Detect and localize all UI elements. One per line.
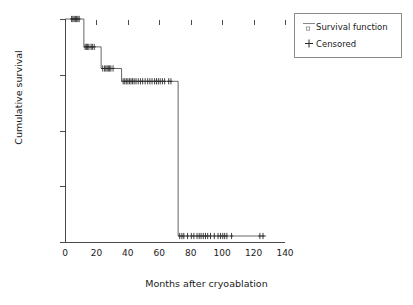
y-tick xyxy=(60,242,65,243)
legend-label-censored: Censored xyxy=(316,39,356,49)
plus-icon xyxy=(301,38,316,49)
survival-chart-figure: Cumulative survival Months after cryoabl… xyxy=(0,0,413,305)
survival-curve xyxy=(65,19,285,242)
censored-mark xyxy=(192,233,195,239)
censored-mark xyxy=(182,233,185,239)
censored-marks-group xyxy=(70,16,265,239)
survival-line-icon xyxy=(301,21,316,32)
censored-mark xyxy=(258,233,261,239)
plot-area: 0.840.880.920.961.00 020406080100120140 xyxy=(65,19,285,242)
x-tick-label: 120 xyxy=(239,249,269,258)
legend-label-survival-function: Survival function xyxy=(316,22,388,32)
censored-mark xyxy=(186,233,189,239)
x-tick-label: 0 xyxy=(50,249,80,258)
x-axis-label: Months after cryoablation xyxy=(0,278,413,289)
censored-mark xyxy=(261,233,264,239)
x-tick-label: 20 xyxy=(81,249,111,258)
censored-mark xyxy=(163,78,166,84)
x-tick-label: 80 xyxy=(176,249,206,258)
legend-item-survival-function: Survival function xyxy=(301,19,396,34)
censored-mark xyxy=(209,233,212,239)
x-tick xyxy=(285,20,286,25)
y-axis-label: Cumulative survival xyxy=(13,28,24,168)
censored-mark xyxy=(213,233,216,239)
censored-mark xyxy=(93,44,96,50)
censored-mark xyxy=(230,233,233,239)
legend-item-censored: Censored xyxy=(301,36,396,51)
x-tick-label: 100 xyxy=(207,249,237,258)
chart-legend: Survival function Censored xyxy=(294,13,402,58)
x-tick-label: 40 xyxy=(113,249,143,258)
x-axis-line xyxy=(65,242,285,243)
x-tick-label: 140 xyxy=(270,249,300,258)
censored-mark xyxy=(111,65,114,71)
step-line xyxy=(65,19,266,236)
censored-mark xyxy=(169,78,172,84)
censored-mark xyxy=(225,233,228,239)
x-tick-label: 60 xyxy=(144,249,174,258)
step-line-group xyxy=(65,19,266,236)
censored-mark xyxy=(206,233,209,239)
